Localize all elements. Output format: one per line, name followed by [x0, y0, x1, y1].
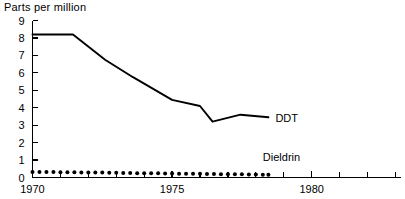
- dieldrin-data-dot: [79, 170, 83, 174]
- dieldrin-data-dot: [233, 172, 237, 176]
- dieldrin-data-dot: [65, 170, 69, 174]
- dieldrin-data-dot: [51, 170, 55, 174]
- dieldrin-data-dot: [219, 172, 223, 176]
- dieldrin-data-dot: [135, 171, 139, 175]
- dieldrin-data-dot: [198, 172, 202, 176]
- dieldrin-data-dot: [254, 173, 258, 177]
- y-axis-tick-label: 6: [18, 67, 24, 79]
- y-axis-tick-label: 2: [18, 137, 24, 149]
- y-axis-tick-label: 7: [18, 49, 24, 61]
- dieldrin-data-dot: [128, 171, 132, 175]
- dieldrin-data-dot: [93, 171, 97, 175]
- dieldrin-data-dot: [100, 171, 104, 175]
- dieldrin-data-dot: [142, 171, 146, 175]
- series-label-ddt: DDT: [275, 112, 298, 124]
- y-axis-tick-label: 3: [18, 119, 24, 131]
- dieldrin-data-dot: [163, 171, 167, 175]
- y-axis-tick-labels: 0123456789: [18, 15, 24, 184]
- chart-figure: Parts per million 0123456789 19701975198…: [0, 0, 405, 199]
- dieldrin-data-dot: [156, 171, 160, 175]
- dieldrin-data-dot: [266, 173, 270, 177]
- series-label-dieldrin: Dieldrin: [263, 151, 300, 163]
- series-dotted-dieldrin: [31, 170, 271, 177]
- dieldrin-data-dot: [247, 173, 251, 177]
- dieldrin-data-dot: [205, 172, 209, 176]
- dieldrin-data-dot: [149, 171, 153, 175]
- y-axis-tick-label: 1: [18, 154, 24, 166]
- series-line-ddt: [33, 34, 269, 121]
- dieldrin-data-dot: [191, 172, 195, 176]
- y-axis-tick-label: 5: [18, 84, 24, 96]
- y-axis-tick-label: 9: [18, 15, 24, 27]
- dieldrin-data-dot: [114, 171, 118, 175]
- dieldrin-data-dot: [212, 172, 216, 176]
- dieldrin-data-dot: [240, 172, 244, 176]
- series-inline-labels: DDTDieldrin: [263, 112, 300, 163]
- y-axis-tick-label: 8: [18, 32, 24, 44]
- dieldrin-data-dot: [226, 172, 230, 176]
- dieldrin-data-dot: [31, 170, 35, 174]
- x-axis-tick-labels: 197019751980: [20, 183, 324, 195]
- x-axis-tick-label: 1970: [20, 183, 44, 195]
- x-axis-tick-label: 1975: [160, 183, 184, 195]
- dieldrin-data-dot: [72, 170, 76, 174]
- dieldrin-data-dot: [170, 171, 174, 175]
- dieldrin-data-dot: [86, 170, 90, 174]
- dieldrin-data-dot: [121, 171, 125, 175]
- line-chart-plot: 0123456789 197019751980 DDTDieldrin: [0, 0, 405, 199]
- dieldrin-data-dot: [177, 172, 181, 176]
- dieldrin-data-dot: [261, 173, 265, 177]
- dieldrin-data-dot: [58, 170, 62, 174]
- dieldrin-data-dot: [44, 170, 48, 174]
- dieldrin-data-dot: [184, 172, 188, 176]
- dieldrin-data-dot: [37, 170, 41, 174]
- x-axis-tick-label: 1980: [299, 183, 323, 195]
- y-axis-tick-label: 4: [18, 102, 24, 114]
- dieldrin-data-dot: [107, 171, 111, 175]
